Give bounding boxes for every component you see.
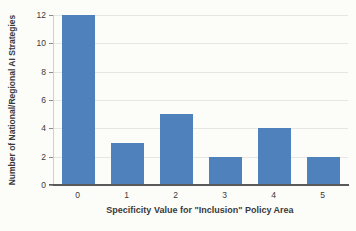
y-tick-mark-0 [49, 185, 53, 186]
bar-category-1 [111, 143, 144, 186]
y-tick-mark-6 [49, 100, 53, 101]
x-axis-title: Specificity Value for "Inclusion" Policy… [53, 205, 347, 216]
x-tick-label-5: 5 [298, 190, 347, 200]
y-tick-label-2: 2 [26, 152, 46, 162]
x-tick-label-1: 1 [102, 190, 151, 200]
bar-category-4 [258, 128, 291, 185]
scanned-chart-page: Number of National/Regional AI Strategie… [0, 0, 356, 231]
bar-category-3 [209, 157, 242, 185]
y-tick-mark-4 [49, 128, 53, 129]
y-tick-label-8: 8 [26, 67, 46, 77]
plot-area [53, 15, 348, 185]
y-tick-label-10: 10 [26, 38, 46, 48]
y-tick-label-4: 4 [26, 123, 46, 133]
x-axis-line [49, 184, 349, 186]
x-tick-label-4: 4 [249, 190, 298, 200]
gridline-y12 [54, 15, 348, 16]
gridline-y4 [54, 128, 348, 129]
x-tick-label-0: 0 [53, 190, 102, 200]
gridline-y6 [54, 100, 348, 101]
x-tick-label-2: 2 [151, 190, 200, 200]
x-tick-label-3: 3 [200, 190, 249, 200]
y-tick-label-6: 6 [26, 95, 46, 105]
bar-category-5 [307, 157, 340, 185]
gridline-y10 [54, 43, 348, 44]
y-tick-mark-8 [49, 72, 53, 73]
bar-category-2 [160, 114, 193, 185]
y-tick-mark-2 [49, 157, 53, 158]
gridline-y2 [54, 157, 348, 158]
y-tick-label-0: 0 [26, 180, 46, 190]
y-axis-title: Number of National/Regional AI Strategie… [6, 3, 18, 197]
bar-category-0 [62, 15, 95, 185]
y-tick-mark-10 [49, 43, 53, 44]
y-tick-label-12: 12 [26, 10, 46, 20]
gridline-y8 [54, 72, 348, 73]
y-tick-mark-12 [49, 15, 53, 16]
